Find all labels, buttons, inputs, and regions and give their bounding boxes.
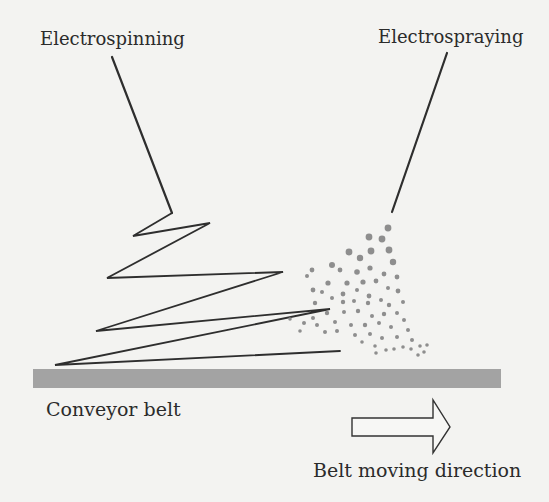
- electrospraying-label: Electrospraying: [378, 28, 523, 46]
- electrospinning-label: Electrospinning: [40, 30, 185, 48]
- electrospraying-needle-line: [392, 53, 447, 212]
- spray-droplets: [288, 225, 429, 357]
- conveyor-belt-bar: [33, 369, 501, 388]
- diagram-graphics: [0, 0, 549, 502]
- conveyor-belt-label: Conveyor belt: [46, 400, 181, 419]
- belt-direction-arrow-icon: [352, 400, 450, 453]
- electrospinning-electrospraying-diagram: Electrospinning Electrospraying Conveyor…: [0, 0, 549, 502]
- belt-direction-label: Belt moving direction: [313, 461, 521, 480]
- electrospinning-needle-line: [112, 57, 172, 213]
- fiber-whipping-path: [55, 213, 340, 365]
